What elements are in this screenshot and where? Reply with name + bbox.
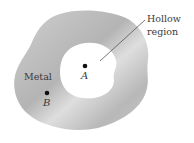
- point-b-marker: [45, 91, 50, 96]
- point-a-marker: [83, 64, 88, 69]
- hollow-label-line1: Hollow: [147, 13, 181, 24]
- point-a-label: A: [80, 70, 88, 81]
- metal-label: Metal: [24, 71, 52, 82]
- hollow-conductor-diagram: A B Metal Hollow region: [0, 0, 194, 143]
- point-b-label: B: [42, 97, 50, 108]
- hollow-label-line2: region: [147, 26, 178, 37]
